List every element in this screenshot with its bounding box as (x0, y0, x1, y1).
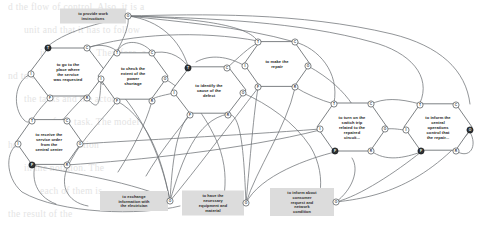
node-label-line: the repair... (427, 135, 449, 140)
node-label-line: circuit... (344, 135, 360, 140)
port-label: I (31, 72, 32, 76)
node-provide-work-instructions[interactable]: to provide workinstructionsO (60, 9, 131, 24)
port-label: I (18, 142, 19, 146)
port-label: T (333, 102, 335, 106)
diagram-canvas: d the flow of control. Also, it is aunit… (0, 0, 487, 229)
edge (67, 130, 320, 165)
port-label: T (187, 66, 189, 70)
bleed-line: the result of the (8, 209, 72, 219)
edge (371, 100, 420, 105)
port-label: T (47, 46, 49, 50)
port-label: O (79, 142, 82, 146)
node-label-line: repair (271, 64, 283, 69)
port-label: F (189, 113, 191, 117)
port-label: O (335, 200, 338, 204)
edge (308, 66, 352, 104)
edge-layer (9, 15, 473, 212)
diagram-svg: d the flow of control. Also, it is aunit… (0, 0, 487, 229)
port-label: F (116, 99, 118, 103)
port-label: F (334, 149, 336, 153)
edge (243, 93, 321, 192)
port-label: T (419, 103, 421, 107)
port-label: O (242, 91, 245, 95)
port-label: T (31, 119, 33, 123)
node-turn-on-switch-trip[interactable]: to turn on theswitch triprelated to ther… (317, 101, 388, 154)
port-label: I (406, 128, 407, 132)
edge (128, 16, 295, 42)
background-bleed-text: d the flow of control. Also, it is aunit… (8, 2, 147, 219)
node-label-line: was requested (53, 77, 83, 82)
port-label: O (469, 128, 472, 132)
port-label: O (245, 201, 248, 205)
port-label: F (420, 149, 422, 153)
edge (246, 88, 295, 203)
node-label-line: instructions (82, 16, 105, 21)
port-label: T (116, 51, 118, 55)
edge (336, 158, 355, 202)
port-label: F (31, 163, 33, 167)
node-label-line: material (205, 208, 220, 213)
port-label: I (320, 127, 321, 131)
node-label-line: defect (203, 93, 216, 98)
port-label: O (169, 199, 172, 203)
node-layer: to provide workinstructionsOto go to the… (15, 9, 473, 217)
bleed-line: unit and that it has to follow (24, 25, 140, 35)
node-inform-consumer-request[interactable]: to inform aboutconsumerrequest andnetwor… (270, 188, 339, 216)
port-label: I (174, 91, 175, 95)
node-identify-cause-defect[interactable]: to identify thecause of thedefectTCIOFR (171, 65, 246, 118)
node-label-line: condition (293, 209, 312, 214)
edge (295, 87, 334, 104)
edge (336, 152, 421, 202)
port-label: F (257, 85, 259, 89)
port-label: I (101, 77, 102, 81)
port-label: O (127, 14, 130, 18)
node-have-necessary-equipment[interactable]: to have thenecessaryequipment andmateria… (182, 191, 249, 216)
edge (371, 151, 421, 158)
port-label: O (164, 77, 167, 81)
port-label: F (49, 96, 51, 100)
port-label: O (307, 64, 310, 68)
port-label: I (245, 64, 246, 68)
node-label-line: shortage (124, 81, 142, 86)
bleed-line: each of them is (40, 186, 102, 196)
port-label: T (257, 40, 259, 44)
node-label-line: the electrician (121, 203, 148, 208)
node-inform-central-operations[interactable]: to inform thecentraloperationscontrol th… (403, 102, 473, 154)
port-label: O (384, 127, 387, 131)
edge (228, 115, 246, 203)
edge (170, 114, 228, 201)
edge (246, 88, 258, 203)
node-exchange-information-electrician[interactable]: to exchangeinformation withthe electrici… (100, 191, 173, 211)
edge (87, 35, 258, 48)
node-label-line: central center (35, 147, 63, 152)
